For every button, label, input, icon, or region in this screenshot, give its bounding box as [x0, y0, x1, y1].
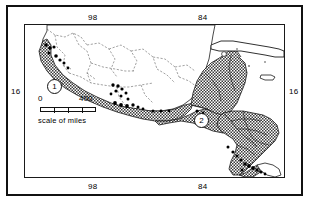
jamaica-outline [260, 75, 275, 80]
scale-bar: 0 400 scale of miles [38, 95, 120, 131]
scale-max-label: 400 [79, 95, 92, 103]
scale-division-1 [54, 107, 55, 113]
region-marker-2[interactable]: 2 [194, 113, 209, 128]
axis-label-bottom-84: 84 [198, 183, 208, 191]
scale-min-label: 0 [38, 95, 42, 103]
scale-bar-caption: scale of miles [38, 116, 86, 125]
axis-label-bottom-98: 98 [88, 183, 98, 191]
axis-label-right-16: 16 [289, 88, 299, 96]
small-island [222, 52, 227, 57]
region-marker-1[interactable]: 1 [47, 79, 62, 94]
scale-division-2 [68, 107, 69, 113]
scale-division-3 [82, 107, 83, 113]
axis-label-top-98: 98 [88, 14, 98, 22]
distribution-map-figure: 98 84 98 84 16 16 [0, 0, 310, 207]
panama-outline [257, 163, 281, 177]
axis-label-left-16: 16 [11, 88, 21, 96]
axis-label-top-84: 84 [198, 14, 208, 22]
